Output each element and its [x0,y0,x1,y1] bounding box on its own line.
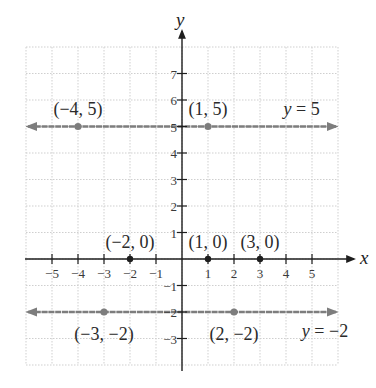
point-marker [205,256,211,262]
point-label: (1, 5) [189,99,228,120]
x-tick-label: −1 [149,266,163,281]
y-tick-label: −2 [163,305,177,320]
point-marker [230,308,237,315]
point-label: (3, 0) [241,232,280,253]
point-marker [204,123,211,130]
point-marker [100,308,107,315]
x-tick-label: −3 [97,266,111,281]
axes: xy [25,9,369,371]
y-tick-label: 7 [171,67,178,82]
x-tick-label: −4 [71,266,85,281]
point-label: (−2, 0) [105,232,154,253]
equation-label: y = 5 [282,99,320,119]
point-label: (−4, 5) [53,99,102,120]
x-tick-label: 1 [205,266,212,281]
y-tick-label: −3 [163,332,177,347]
point-label: (2, −2) [209,324,258,345]
y-axis-title: y [174,9,185,30]
x-tick-label: −2 [123,266,137,281]
equation-label: y = −2 [300,321,348,341]
y-tick-label: 3 [171,173,178,188]
x-axis-title: x [359,247,369,268]
y-tick-label: −1 [163,279,177,294]
x-tick-label: −5 [45,266,59,281]
y-tick-label: 2 [171,199,178,214]
y-tick-label: 4 [171,146,178,161]
labels: (−4, 5)(1, 5)y = 5(−3, −2)(2, −2)y = −2(… [53,99,348,345]
point-marker [74,123,81,130]
coordinate-plane-chart: xy −5−4−3−2−1123457654321−1−2−3 (−4, 5)(… [0,0,376,388]
y-tick-label: 6 [171,93,178,108]
x-tick-label: 5 [309,266,316,281]
point-label: (1, 0) [189,232,228,253]
point-marker [257,256,263,262]
point-label: (−3, −2) [74,324,133,345]
x-tick-label: 4 [283,266,290,281]
y-tick-label: 1 [171,226,178,241]
x-tick-label: 2 [231,266,238,281]
point-marker [127,256,133,262]
y-tick-label: 5 [171,120,178,135]
x-tick-label: 3 [257,266,264,281]
